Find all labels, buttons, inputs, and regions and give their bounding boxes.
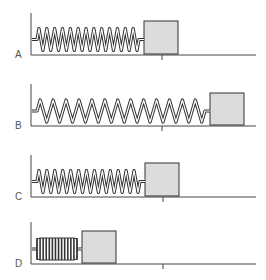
panel-d: D	[15, 222, 256, 269]
panel-c: C	[15, 155, 256, 202]
panel-a: A	[15, 13, 256, 60]
panel-b: B	[15, 84, 256, 131]
panel-label: D	[15, 258, 22, 269]
spring-coil	[32, 29, 144, 51]
panel-label: C	[15, 191, 22, 202]
mass-block	[144, 21, 178, 54]
mass-block	[82, 231, 116, 263]
spring-coil	[32, 238, 82, 260]
panel-label: B	[15, 120, 22, 131]
mass-block	[145, 163, 179, 196]
spring-mass-diagram: ABCD	[0, 0, 266, 280]
spring-coil	[32, 100, 210, 122]
spring-coil	[32, 171, 145, 193]
panel-label: A	[15, 49, 22, 60]
mass-block	[210, 93, 244, 125]
